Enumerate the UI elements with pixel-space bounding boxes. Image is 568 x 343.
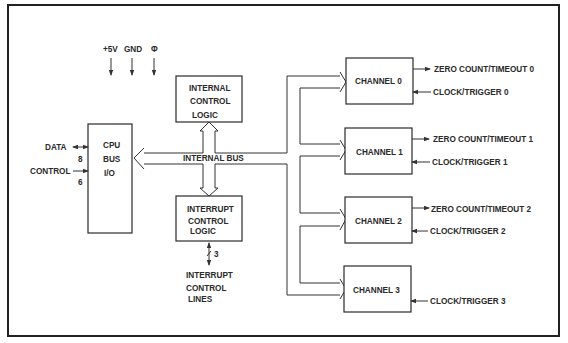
data-label: DATA: [45, 143, 67, 152]
block-diagram: +5V GND Φ CPU BUS I/O DATA 8 CONTROL 6 I…: [0, 0, 568, 343]
channel-2-input-label: CLOCK/TRIGGER 2: [430, 227, 506, 236]
bus-route-ch0-ch1: [300, 88, 340, 144]
cpu-bus-io-line-3: I/O: [104, 169, 116, 178]
cpu-signals: DATA 8 CONTROL 6: [30, 143, 88, 187]
channel-0: CHANNEL 0 ZERO COUNT/TIMEOUT 0 CLOCK/TRI…: [346, 58, 535, 104]
channel-0-input-label: CLOCK/TRIGGER 0: [433, 88, 509, 97]
interrupt-lines-width: 3: [214, 250, 219, 259]
channel-2-output-label: ZERO COUNT/TIMEOUT 2: [431, 205, 532, 214]
control-width: 6: [78, 178, 83, 187]
interrupt-lines: 3 INTERRUPT CONTROL LINES: [186, 243, 233, 304]
interrupt-lines-label-3: LINES: [188, 295, 213, 304]
channel-0-label: CHANNEL 0: [355, 77, 402, 86]
control-label: CONTROL: [30, 167, 70, 176]
channel-2: CHANNEL 2 ZERO COUNT/TIMEOUT 2 CLOCK/TRI…: [345, 197, 532, 243]
channel-2-label: CHANNEL 2: [355, 217, 402, 226]
icl-line-2: CONTROL: [190, 97, 230, 106]
intcl-line-2: CONTROL: [188, 217, 228, 226]
power-label-gnd: GND: [124, 45, 142, 54]
bus-arrow-ch0: [340, 72, 346, 92]
cpu-bus-io-line-1: CPU: [103, 141, 120, 150]
channel-1-output-label: ZERO COUNT/TIMEOUT 1: [433, 135, 534, 144]
intcl-line-1: INTERRUPT: [187, 205, 234, 214]
internal-control-logic-block: INTERNAL CONTROL LOGIC: [176, 76, 242, 122]
channel-1: CHANNEL 1 ZERO COUNT/TIMEOUT 1 CLOCK/TRI…: [345, 128, 534, 174]
power-label-phi: Φ: [151, 45, 158, 54]
channel-3-input-label: CLOCK/TRIGGER 3: [430, 297, 506, 306]
cpu-bus-io-line-2: BUS: [103, 155, 121, 164]
bus-route-ch2-ch3: [300, 226, 340, 283]
channel-1-input-label: CLOCK/TRIGGER 1: [432, 158, 508, 167]
icl-line-1: INTERNAL: [189, 84, 230, 93]
interrupt-lines-label-2: CONTROL: [186, 284, 226, 293]
interrupt-lines-label-1: INTERRUPT: [186, 271, 233, 280]
intcl-line-3: LOGIC: [190, 227, 216, 236]
channel-0-output-label: ZERO COUNT/TIMEOUT 0: [434, 65, 535, 74]
bus-route-ch1-ch2: [300, 156, 340, 213]
channel-1-label: CHANNEL 1: [356, 148, 403, 157]
data-width: 8: [78, 155, 83, 164]
channel-3: CHANNEL 3 CLOCK/TRIGGER 3: [344, 266, 506, 312]
icl-line-3: LOGIC: [192, 111, 218, 120]
internal-bus-label: INTERNAL BUS: [183, 154, 244, 163]
bus-arrow-cpu: [134, 148, 144, 169]
channel-3-label: CHANNEL 3: [353, 286, 400, 295]
cpu-bus-io-block: CPU BUS I/O: [88, 124, 132, 233]
interrupt-control-logic-block: INTERRUPT CONTROL LOGIC: [176, 196, 242, 241]
power-label-5v: +5V: [103, 45, 118, 54]
power-inputs: +5V GND Φ: [103, 45, 158, 75]
